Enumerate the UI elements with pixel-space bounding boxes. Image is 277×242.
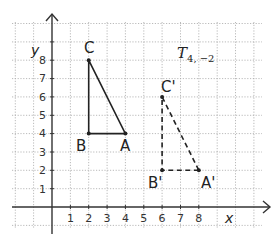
point-a-prime [197,168,201,172]
label-a-prime: A' [201,174,215,192]
label-b: B [76,137,86,155]
y-tick-7: 7 [39,72,46,85]
y-axis-label: y [30,42,40,58]
y-tick-2: 2 [39,164,46,177]
label-c: C [84,39,94,57]
point-c [87,58,91,62]
x-tick-4: 4 [122,212,129,225]
y-tick-labels: 1 2 3 4 5 6 7 8 [39,54,46,196]
x-tick-3: 3 [104,212,111,225]
point-a [123,132,127,136]
y-tick-1: 1 [39,183,46,196]
x-tick-2: 2 [85,212,92,225]
x-axis-label: x [224,210,234,226]
x-tick-8: 8 [195,212,202,225]
x-tick-6: 6 [159,212,166,225]
label-a: A [120,137,131,155]
x-tick-7: 7 [177,212,184,225]
label-c-prime: C' [161,78,176,96]
y-tick-5: 5 [39,109,46,122]
point-b-prime [160,168,164,172]
y-tick-4: 4 [39,127,46,140]
original-triangle: A B C [76,39,131,155]
x-tick-5: 5 [140,212,147,225]
grid [12,22,262,228]
axes [12,14,270,234]
label-b-prime: B' [148,174,162,192]
coordinate-plane: 1 2 3 4 5 6 7 8 1 2 3 4 5 6 7 8 y x T4, … [0,0,277,242]
y-tick-3: 3 [39,146,46,159]
y-tick-6: 6 [39,91,46,104]
tick-marks [50,42,199,209]
x-tick-labels: 1 2 3 4 5 6 7 8 [67,212,202,225]
translation-label: T4, −2 [177,44,214,64]
y-tick-8: 8 [39,54,46,67]
x-tick-1: 1 [67,212,74,225]
image-triangle: A' B' C' [148,78,215,192]
point-b [87,132,91,136]
